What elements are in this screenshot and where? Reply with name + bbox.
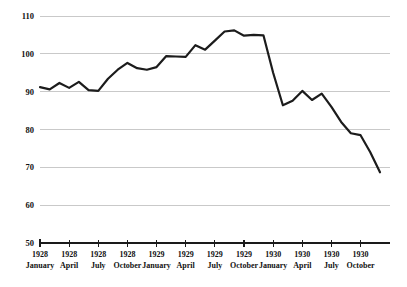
x-axis-tick-month: July	[324, 261, 339, 270]
x-axis-tick-year: 1930	[265, 250, 281, 259]
x-axis-tick-month: October	[113, 261, 141, 270]
x-axis-tick-month: April	[293, 261, 312, 270]
y-axis-tick-label: 110	[22, 11, 34, 21]
y-axis-tick-label: 90	[26, 87, 35, 97]
x-axis-tick-year: 1928	[119, 250, 135, 259]
y-axis-tick-label: 70	[26, 162, 35, 172]
y-axis-tick-label: 60	[26, 200, 35, 210]
y-axis-tick-label: 80	[26, 125, 35, 135]
x-axis-tick-year: 1929	[149, 250, 165, 259]
x-axis-tick-month: January	[259, 261, 287, 270]
x-axis-tick-year: 1929	[236, 250, 252, 259]
x-axis-tick-year: 1928	[90, 250, 106, 259]
chart-canvas: 5060708090100110 1928January1928April192…	[0, 0, 407, 287]
x-axis-tick-year: 1929	[178, 250, 194, 259]
x-axis-tick-month: July	[208, 261, 223, 270]
x-axis-tick-labels: 1928January1928April1928July1928October1…	[26, 250, 375, 270]
x-axis-tick-year: 1930	[353, 250, 369, 259]
x-axis-tick-month: April	[60, 261, 79, 270]
data-series-group	[40, 30, 380, 172]
x-axis-tick-month: July	[91, 261, 106, 270]
x-axis-tick-month: April	[177, 261, 196, 270]
x-axis-tick-month: January	[142, 261, 170, 270]
x-axis-tick-year: 1929	[207, 250, 223, 259]
x-axis-tick-year: 1928	[61, 250, 77, 259]
x-axis-tick-year: 1930	[323, 250, 339, 259]
y-axis-tick-label: 100	[21, 49, 34, 59]
x-axis-tick-year: 1930	[294, 250, 310, 259]
y-axis-tick-label: 50	[26, 238, 35, 248]
x-axis-tick-year: 1928	[32, 250, 48, 259]
x-axis-tick-month: January	[26, 261, 54, 270]
y-axis-tick-labels: 5060708090100110	[21, 11, 34, 248]
gridlines-group	[40, 16, 390, 205]
x-axis-tick-month: October	[347, 261, 375, 270]
line-chart: 5060708090100110 1928January1928April192…	[0, 0, 407, 287]
data-line-index	[40, 30, 380, 172]
x-axis-tick-month: October	[230, 261, 258, 270]
